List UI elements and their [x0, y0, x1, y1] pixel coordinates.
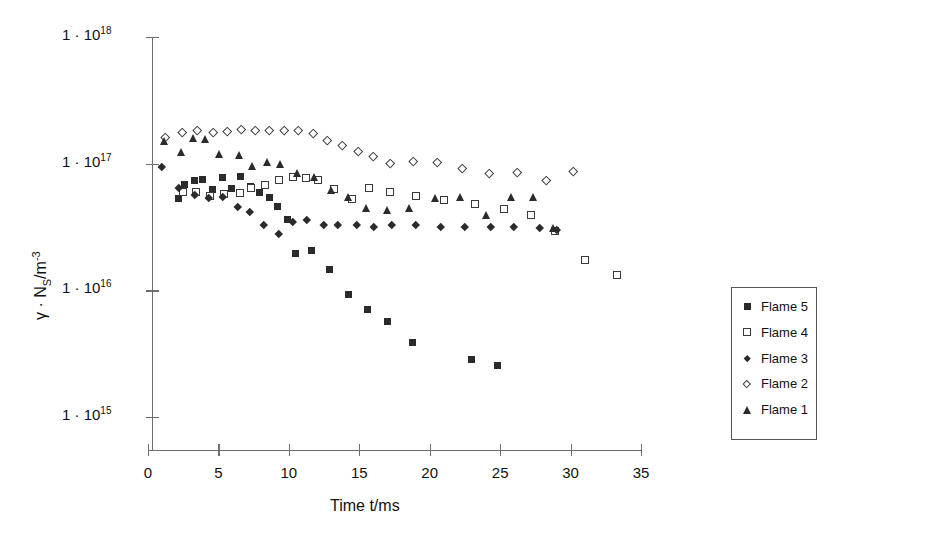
data-point [412, 192, 420, 200]
legend-item[interactable]: Flame 3 [739, 351, 808, 366]
data-point [384, 318, 391, 325]
data-point [276, 160, 284, 168]
data-point [364, 306, 371, 313]
data-point [260, 221, 268, 229]
y-tick [146, 417, 159, 418]
data-point [507, 193, 515, 201]
data-point [486, 222, 494, 230]
data-point [234, 202, 242, 210]
data-point [338, 141, 347, 150]
data-point [569, 167, 578, 176]
legend-item[interactable]: Flame 5 [739, 299, 808, 314]
y-axis-title-text: γ · N [32, 286, 49, 320]
x-tick-label: 0 [132, 464, 164, 481]
legend-label: Flame 2 [761, 376, 808, 391]
data-point [247, 184, 255, 192]
data-point [263, 158, 271, 166]
y-tick-label: 1 · 1016 [62, 278, 111, 296]
data-point [345, 291, 352, 298]
data-point [219, 174, 226, 181]
data-point [236, 124, 245, 133]
x-axis-title: Time t/ms [330, 497, 400, 515]
data-point [549, 224, 557, 232]
data-point [289, 218, 297, 226]
data-point [326, 266, 333, 273]
y-axis-title-unit: /m [32, 261, 49, 279]
legend-item[interactable]: Flame 4 [739, 325, 808, 340]
y-tick [146, 37, 159, 38]
data-point [248, 162, 256, 170]
data-point [201, 135, 209, 143]
data-point [456, 193, 464, 201]
data-point [386, 188, 394, 196]
data-point [412, 221, 420, 229]
data-point [613, 271, 621, 279]
x-tick-label: 5 [202, 464, 234, 481]
y-axis-title: γ · NS/m-3 [30, 251, 53, 320]
y-axis-line [152, 37, 153, 451]
data-point [275, 176, 283, 184]
data-point [581, 256, 589, 264]
data-point [431, 194, 439, 202]
data-point [482, 211, 490, 219]
data-point [222, 127, 231, 136]
data-point [158, 163, 166, 171]
legend-marker-filled-diamond-icon [739, 352, 755, 364]
data-point [308, 247, 315, 254]
data-point [432, 158, 441, 167]
chart-canvas: γ · NS/m-3 Time t/ms 05101520253035 1 · … [0, 0, 932, 543]
x-tick [218, 444, 219, 456]
data-point [280, 126, 289, 135]
data-point [189, 134, 197, 142]
data-point [175, 195, 182, 202]
data-point [344, 193, 352, 201]
data-point [408, 157, 417, 166]
data-point [468, 356, 475, 363]
data-point [303, 216, 311, 224]
data-point [293, 169, 301, 177]
data-point [265, 126, 274, 135]
data-point [236, 189, 244, 197]
data-point [369, 151, 378, 160]
data-point [292, 250, 299, 257]
data-point [235, 151, 243, 159]
data-point [334, 221, 342, 229]
data-point [471, 200, 479, 208]
y-axis-title-sub: S [41, 279, 53, 286]
legend-item[interactable]: Flame 2 [739, 376, 808, 391]
data-point [362, 204, 370, 212]
x-tick-label: 15 [343, 464, 375, 481]
x-tick [359, 444, 360, 456]
data-point [208, 127, 217, 136]
data-point [199, 176, 206, 183]
x-tick [500, 444, 501, 456]
y-axis-title-exp: -3 [30, 251, 42, 261]
x-axis-line [148, 450, 642, 451]
x-tick [430, 444, 431, 456]
x-tick [641, 444, 642, 456]
data-point [529, 193, 537, 201]
data-point [409, 339, 416, 346]
data-point [256, 189, 263, 196]
data-point [500, 205, 508, 213]
data-point [461, 222, 469, 230]
data-point [274, 203, 281, 210]
x-tick-label: 35 [625, 464, 657, 481]
data-point [542, 176, 551, 185]
data-point [494, 362, 501, 369]
data-point [437, 222, 445, 230]
data-point [405, 204, 413, 212]
data-point [294, 126, 303, 135]
data-point [320, 221, 328, 229]
y-tick-label: 1 · 1015 [62, 405, 111, 423]
legend-label: Flame 4 [761, 325, 808, 340]
data-point [327, 186, 335, 194]
legend-marker-open-square-icon [739, 326, 755, 338]
data-point [177, 148, 185, 156]
data-point [369, 222, 377, 230]
data-point [302, 174, 310, 182]
data-point [536, 224, 544, 232]
data-point [440, 196, 448, 204]
data-point [353, 221, 361, 229]
legend-item[interactable]: Flame 1 [739, 402, 808, 417]
